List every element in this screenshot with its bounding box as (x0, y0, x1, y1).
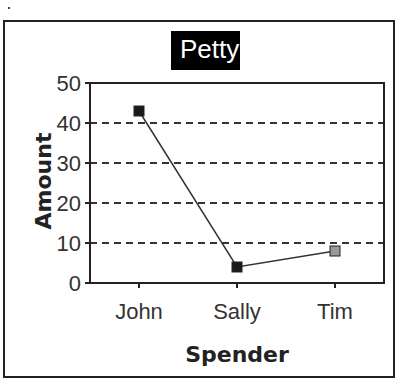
plot-area: 01020304050 JohnSallyTim (0, 0, 400, 392)
data-point-marker[interactable] (232, 262, 242, 272)
y-tick-label: 0 (69, 271, 81, 296)
x-axis-ticks: JohnSallyTim (115, 283, 353, 324)
y-axis-ticks: 01020304050 (57, 71, 90, 296)
data-markers (134, 106, 340, 272)
x-tick-label: Tim (317, 299, 353, 324)
data-point-marker[interactable] (330, 246, 340, 256)
gridlines (90, 123, 384, 243)
y-tick-label: 30 (57, 151, 81, 176)
y-tick-label: 20 (57, 191, 81, 216)
y-tick-label: 10 (57, 231, 81, 256)
x-tick-label: Sally (213, 299, 261, 324)
x-tick-label: John (115, 299, 163, 324)
y-tick-label: 50 (57, 71, 81, 96)
data-point-marker[interactable] (134, 106, 144, 116)
y-tick-label: 40 (57, 111, 81, 136)
